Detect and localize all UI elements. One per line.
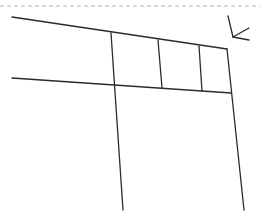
- arrow-head-upper: [233, 28, 249, 37]
- right-vertical-line: [227, 49, 244, 210]
- left-vertical-line: [111, 33, 123, 210]
- top-edge-line: [12, 17, 227, 49]
- arrow-shaft: [228, 16, 233, 37]
- middle-horizontal-line: [12, 78, 231, 93]
- arrow-icon: [228, 16, 249, 40]
- arrow-head-lower: [233, 37, 249, 40]
- divider-vertical-line-1: [158, 40, 162, 88]
- divider-vertical-line-2: [199, 46, 202, 91]
- sketch-canvas: [0, 0, 260, 219]
- grid-sketch-diagram: [0, 0, 260, 219]
- grid-lines: [12, 17, 244, 210]
